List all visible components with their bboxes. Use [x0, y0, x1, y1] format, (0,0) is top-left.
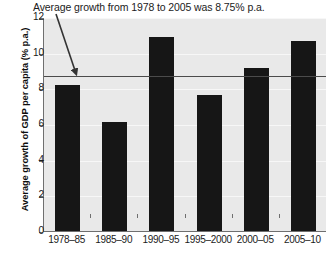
gridline	[44, 54, 326, 55]
gridline	[44, 18, 326, 19]
x-tick-label: 1978–85	[43, 234, 90, 245]
bar-2005–10	[291, 41, 316, 231]
x-tick-mark	[137, 214, 138, 218]
x-tick-label: 2000–05	[232, 234, 279, 245]
gridline	[44, 161, 326, 162]
bar-1990–95	[149, 37, 174, 231]
x-tick-mark	[185, 214, 186, 218]
x-tick-label: 1995–2000	[185, 234, 232, 245]
x-tick-mark	[279, 214, 280, 218]
average-line	[44, 76, 326, 77]
y-tick-label: 0	[4, 225, 44, 236]
chart-title: Average growth from 1978 to 2005 was 8.7…	[33, 1, 313, 14]
x-tick-label: 1990–95	[137, 234, 184, 245]
bar-1985–90	[102, 122, 127, 231]
gridline	[44, 89, 326, 90]
y-tick-label: 2	[4, 189, 44, 200]
x-tick-label: 1985–90	[90, 234, 137, 245]
chart-figure: Average growth from 1978 to 2005 was 8.7…	[0, 0, 326, 260]
bar-1978–85	[55, 85, 80, 231]
x-tick-mark	[232, 214, 233, 218]
y-tick-label: 6	[4, 118, 44, 129]
y-tick-label: 4	[4, 154, 44, 165]
x-tick-label: 2005–10	[279, 234, 326, 245]
y-tick-label: 12	[4, 11, 44, 22]
bar-1995–2000	[197, 95, 222, 231]
y-tick-label: 8	[4, 82, 44, 93]
plot-area	[43, 18, 326, 232]
x-tick-mark	[90, 214, 91, 218]
gridline	[44, 125, 326, 126]
gridline	[44, 196, 326, 197]
y-tick-label: 10	[4, 47, 44, 58]
bar-2000–05	[244, 68, 269, 231]
x-tick-mark	[43, 214, 44, 218]
